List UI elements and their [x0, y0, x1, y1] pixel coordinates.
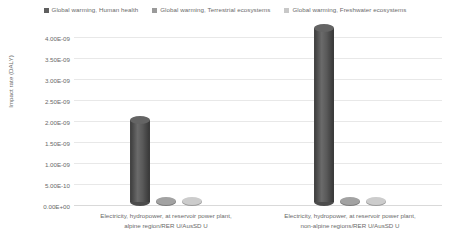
chart-legend: Global warming, Human health Global warm… [0, 6, 450, 14]
bar-cylinder[interactable] [156, 197, 176, 207]
bar-cylinder[interactable] [340, 197, 360, 207]
y-axis-tick: 1.00E-09 [26, 161, 70, 168]
cylinder-top-cap [182, 197, 202, 205]
y-axis-tick: 2.00E-09 [26, 119, 70, 126]
bar-group [74, 38, 258, 206]
bar-cylinder[interactable] [366, 197, 386, 207]
bar-cylinder[interactable] [314, 24, 334, 206]
chart-container: Global warming, Human health Global warm… [0, 0, 450, 247]
legend-label-terrestrial-ecosystems: Global warming, Terrestrial ecosystems [160, 6, 270, 14]
cylinder-body [130, 120, 150, 202]
y-axis-title: Impact rate (DALY) [7, 34, 14, 130]
y-axis-tick: 3.50E-09 [26, 56, 70, 63]
cylinder-top-cap [314, 24, 334, 32]
cylinder-top-cap [340, 197, 360, 205]
legend-label-freshwater-ecosystems: Global warming, Freshwater ecosystems [292, 6, 406, 14]
legend-item-freshwater-ecosystems[interactable]: Global warming, Freshwater ecosystems [284, 6, 406, 14]
legend-swatch-terrestrial-ecosystems [152, 8, 157, 13]
legend-swatch-human-health [44, 8, 49, 13]
bar-group [258, 38, 442, 206]
bar-cylinder[interactable] [182, 197, 202, 207]
x-axis-category-label-line: non-alpine regions/RER U/AusSD U [262, 221, 438, 231]
y-axis-tick: 4.00E-09 [26, 35, 70, 42]
bar-cylinder[interactable] [130, 116, 150, 206]
legend-item-terrestrial-ecosystems[interactable]: Global warming, Terrestrial ecosystems [152, 6, 270, 14]
x-axis-category-label-line: Electricity, hydropower, at reservoir po… [262, 211, 438, 221]
x-axis-category-label-line: alpine region/RER U/AusSD U [78, 221, 254, 231]
x-axis-category-label: Electricity, hydropower, at reservoir po… [74, 211, 258, 245]
y-axis-tick: 2.50E-09 [26, 98, 70, 105]
y-axis-tick: 5.00E-10 [26, 182, 70, 189]
x-axis-category-labels: Electricity, hydropower, at reservoir po… [74, 211, 442, 245]
legend-swatch-freshwater-ecosystems [284, 8, 289, 13]
y-axis-tick: 3.00E-09 [26, 77, 70, 84]
legend-label-human-health: Global warming, Human health [52, 6, 139, 14]
x-axis-category-label: Electricity, hydropower, at reservoir po… [258, 211, 442, 245]
plot-area [74, 38, 442, 206]
y-axis-tick: 0.00E+00 [26, 203, 70, 210]
cylinder-body [314, 28, 334, 202]
y-axis-tick: 1.50E-09 [26, 140, 70, 147]
legend-item-human-health[interactable]: Global warming, Human health [44, 6, 139, 14]
y-axis-tick-labels: 0.00E+005.00E-101.00E-091.50E-092.00E-09… [26, 38, 70, 206]
cylinder-top-cap [366, 197, 386, 205]
cylinder-top-cap [156, 197, 176, 205]
x-axis-category-label-line: Electricity, hydropower, at reservoir po… [78, 211, 254, 221]
